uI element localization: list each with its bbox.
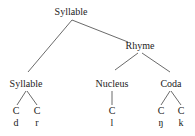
rhyme-label: Rhyme	[126, 41, 155, 51]
cv-slot-4: C	[158, 106, 165, 116]
segment-k: k	[179, 118, 184, 128]
edge-root-syllable	[28, 20, 72, 72]
edge-syllable-c2	[27, 91, 37, 105]
cv-slot-3: C	[109, 106, 116, 116]
cv-slot-2: C	[34, 106, 41, 116]
edge-rhyme-coda	[142, 53, 170, 72]
edge-coda-c2	[171, 91, 181, 105]
tree-edges	[0, 0, 195, 136]
edge-coda-c1	[161, 91, 170, 105]
segment-l: l	[111, 118, 114, 128]
edge-rhyme-nucleus	[115, 53, 138, 70]
root-syllable-label: Syllable	[55, 7, 88, 17]
nucleus-label: Nucleus	[96, 79, 129, 89]
segment-r: r	[35, 118, 38, 128]
onset-syllable-label: Syllable	[10, 79, 43, 89]
cv-slot-5: C	[178, 106, 185, 116]
edge-root-rhyme	[72, 20, 128, 42]
segment-d: d	[14, 118, 19, 128]
segment-eng: ŋ	[159, 118, 164, 128]
edge-syllable-c1	[17, 91, 26, 105]
coda-label: Coda	[160, 79, 181, 89]
cv-slot-1: C	[13, 106, 20, 116]
